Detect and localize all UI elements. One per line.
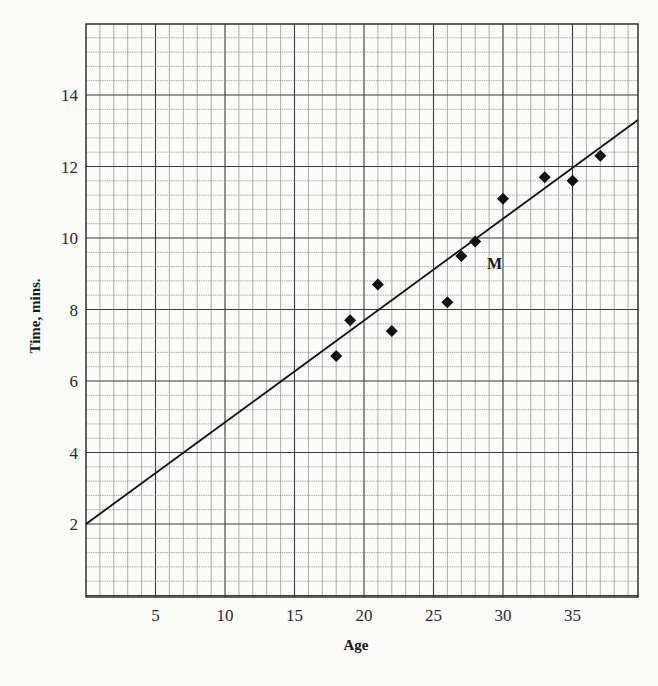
y-axis-ticks: 2468101214 (61, 86, 79, 534)
data-point (344, 314, 356, 326)
x-axis-title: Age (344, 637, 369, 653)
y-tick-label: 2 (70, 515, 79, 534)
y-tick-label: 14 (61, 86, 79, 105)
x-tick-label: 5 (151, 606, 160, 625)
data-point (567, 175, 579, 187)
data-points (330, 150, 606, 362)
best-fit-line (86, 120, 638, 524)
data-point (386, 325, 398, 337)
y-tick-label: 6 (70, 372, 79, 391)
data-point (469, 236, 481, 248)
point-label-m: M (487, 255, 502, 272)
x-tick-label: 35 (564, 606, 581, 625)
x-tick-label: 25 (425, 606, 442, 625)
y-tick-label: 8 (70, 301, 79, 320)
y-tick-label: 12 (61, 158, 78, 177)
y-tick-label: 10 (61, 229, 78, 248)
y-axis-title: Time, mins. (27, 278, 43, 353)
data-point (441, 296, 453, 308)
x-tick-label: 20 (356, 606, 373, 625)
x-axis-ticks: 5101520253035 (151, 606, 581, 625)
y-tick-label: 4 (70, 444, 79, 463)
x-tick-label: 15 (286, 606, 303, 625)
x-tick-label: 30 (495, 606, 512, 625)
data-point (497, 193, 509, 205)
scatter-chart: 5101520253035 2468101214 M Age Time, min… (0, 0, 658, 686)
data-point (539, 171, 551, 183)
graph-paper-grid (86, 24, 638, 597)
data-point (330, 350, 342, 362)
data-point (372, 278, 384, 290)
plot-frame (86, 24, 638, 597)
x-tick-label: 10 (217, 606, 234, 625)
